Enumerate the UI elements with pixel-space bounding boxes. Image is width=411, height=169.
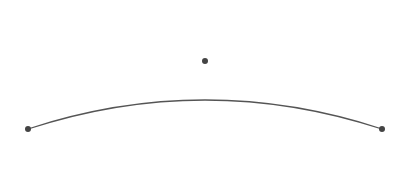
start-point <box>25 126 31 132</box>
control-point <box>202 58 208 64</box>
bezier-curve <box>28 100 382 129</box>
diagram-canvas <box>0 0 411 169</box>
bezier-diagram <box>0 0 411 169</box>
end-point <box>379 126 385 132</box>
